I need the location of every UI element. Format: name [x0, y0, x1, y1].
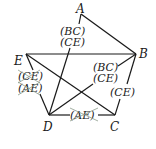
tag-ad-ce: (CE): [60, 36, 85, 49]
tag-cb-ce: (CE): [110, 86, 135, 99]
node-label-C: C: [110, 120, 119, 134]
graph-diagram: A B E D C (BC) (CE) (CE) (AE) (BC) (CE) …: [0, 0, 156, 149]
tag-db-ce: (CE): [93, 72, 118, 85]
edge-A-B: [81, 14, 136, 54]
edge-C-B-lower: [115, 99, 120, 115]
node-label-E: E: [13, 54, 23, 68]
node-label-D: D: [42, 120, 53, 134]
node-label-A: A: [75, 2, 85, 16]
edge-E-D-lower: [40, 94, 49, 115]
node-label-B: B: [138, 47, 148, 61]
